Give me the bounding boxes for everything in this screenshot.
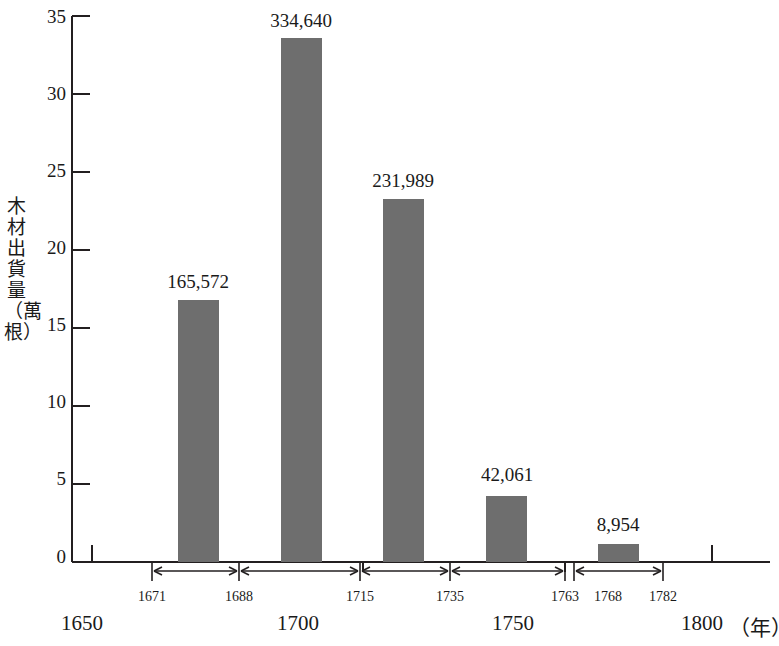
bar-1768-1782	[598, 544, 639, 562]
bar-1735-1763	[486, 496, 527, 562]
y-axis-ticks	[72, 16, 90, 484]
bar-1671-1688	[178, 300, 219, 562]
bar-1688-1715	[281, 38, 322, 562]
period-range-indicators	[152, 563, 663, 581]
bar-series	[178, 38, 639, 562]
chart-plot-area	[0, 0, 779, 646]
bar-1715-1735	[383, 199, 424, 562]
chart-container: 木材出貨量（萬根） 35 30 25 20 15 10 5 0 165,572 …	[0, 0, 779, 646]
